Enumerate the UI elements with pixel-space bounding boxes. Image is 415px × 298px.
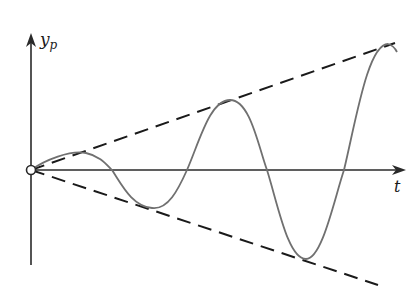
origin-marker	[27, 166, 36, 175]
resonance-diagram: yp t	[0, 0, 415, 298]
t-axis-label: t	[394, 177, 401, 196]
upper-envelope-line	[31, 43, 395, 170]
y-axis-label: yp	[39, 29, 58, 52]
